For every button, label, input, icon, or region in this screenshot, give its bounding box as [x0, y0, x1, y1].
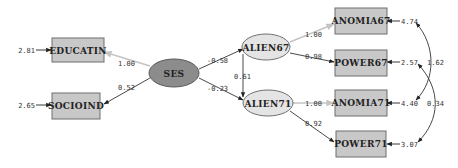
- coef-alien67-anomia67: 1.00: [305, 31, 322, 39]
- node-anomia71-label: ANOMIA71: [330, 98, 390, 108]
- node-socioind[interactable]: SOCIOIND: [48, 93, 104, 119]
- node-power71[interactable]: POWER71: [334, 131, 388, 157]
- node-ses[interactable]: SES: [149, 59, 199, 87]
- node-power67-label: POWER67: [334, 58, 388, 68]
- node-alien71[interactable]: ALIEN71: [243, 90, 293, 116]
- coef-ses-alien67: -0.58: [207, 57, 228, 65]
- node-alien67[interactable]: ALIEN67: [241, 34, 290, 60]
- coef-ses-educatin: 1.00: [118, 60, 135, 68]
- coef-alien71-power71: 0.92: [305, 120, 322, 128]
- node-alien71-label: ALIEN71: [243, 99, 291, 109]
- error-socioind: 2.65: [18, 102, 35, 110]
- coef-alien67-alien71: 0.61: [234, 73, 251, 81]
- cov-power-value: 0.34: [427, 100, 444, 108]
- coef-ses-socioind: 0.52: [118, 84, 135, 92]
- node-power71-label: POWER71: [334, 139, 388, 149]
- error-power71: 3.07: [401, 141, 418, 149]
- node-educatin[interactable]: EDUCATIN: [49, 38, 107, 62]
- node-anomia71[interactable]: ANOMIA71: [330, 90, 390, 116]
- node-anomia67[interactable]: ANOMIA67: [330, 8, 390, 34]
- node-alien67-label: ALIEN67: [241, 43, 289, 53]
- node-ses-label: SES: [164, 69, 185, 79]
- error-anomia71: 4.40: [401, 100, 418, 108]
- error-power67: 2.57: [401, 59, 418, 67]
- coef-ses-alien71: -0.23: [207, 85, 228, 93]
- node-socioind-label: SOCIOIND: [48, 101, 104, 111]
- node-anomia67-label: ANOMIA67: [330, 16, 390, 26]
- coef-alien71-anomia71: 1.00: [305, 100, 322, 108]
- cov-anomia-value: 1.62: [427, 59, 444, 67]
- path-diagram: EDUCATIN SOCIOIND ANOMIA67 POWER67 ANOMI…: [0, 0, 458, 168]
- node-power67[interactable]: POWER67: [334, 50, 388, 76]
- error-anomia67: 4.74: [401, 18, 418, 26]
- node-educatin-label: EDUCATIN: [49, 46, 107, 56]
- coef-alien67-power67: 0.98: [305, 53, 322, 61]
- error-educatin: 2.81: [18, 47, 35, 55]
